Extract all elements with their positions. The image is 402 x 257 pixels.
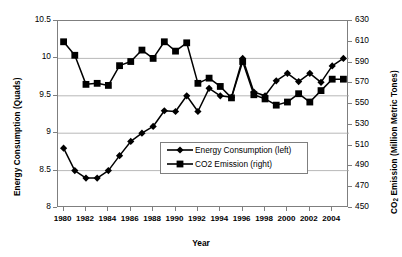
y-axis-left-title: Energy Consumption (Quads) xyxy=(13,77,22,196)
x-tick-mark xyxy=(175,207,176,211)
y-tick-right: 470 xyxy=(355,180,369,190)
y-tick-right: 510 xyxy=(355,139,369,149)
legend-item: Energy Consumption (left) xyxy=(161,143,307,157)
y-tick-left: 8.5 xyxy=(23,164,51,174)
y-tick-right: 570 xyxy=(355,76,369,86)
y-tick-mark-left xyxy=(53,132,57,133)
plot-area xyxy=(57,20,348,207)
series-2 xyxy=(60,38,347,108)
x-tick-mark xyxy=(219,207,220,211)
x-tick: 2004 xyxy=(320,214,342,223)
legend-label: Energy Consumption (left) xyxy=(194,145,291,155)
y-tick-mark-left xyxy=(53,57,57,58)
y-tick-left: 9 xyxy=(23,126,51,136)
legend-square-marker-icon xyxy=(166,158,194,170)
y-tick-mark-right xyxy=(348,207,352,208)
x-tick-mark xyxy=(197,207,198,211)
y-tick-right: 610 xyxy=(355,35,369,45)
y-tick-mark-right xyxy=(348,145,352,146)
legend-item: CO2 Emission (right) xyxy=(161,157,307,171)
y-tick-right: 490 xyxy=(355,159,369,169)
x-tick-mark xyxy=(63,207,64,211)
y-tick-left: 10 xyxy=(23,51,51,61)
legend-label: CO2 Emission (right) xyxy=(194,159,272,169)
x-tick: 1982 xyxy=(74,214,96,223)
y-tick-mark-right xyxy=(348,103,352,104)
x-tick-mark xyxy=(331,207,332,211)
x-tick: 2000 xyxy=(275,214,297,223)
x-tick: 2002 xyxy=(298,214,320,223)
x-tick: 1994 xyxy=(208,214,230,223)
x-tick: 1988 xyxy=(141,214,163,223)
y-tick-mark-left xyxy=(53,207,57,208)
x-tick: 1992 xyxy=(186,214,208,223)
data-series-layer xyxy=(58,21,349,208)
x-tick-mark xyxy=(130,207,131,211)
y-tick-mark-right xyxy=(348,124,352,125)
x-tick-mark xyxy=(85,207,86,211)
y-tick-right: 550 xyxy=(355,97,369,107)
x-tick-mark xyxy=(264,207,265,211)
chart-container: Energy Consumption (Quads) CO2 Emission … xyxy=(0,0,402,257)
legend-diamond-marker-icon xyxy=(166,144,194,156)
x-tick: 1990 xyxy=(164,214,186,223)
y-tick-mark-right xyxy=(348,62,352,63)
y-tick-mark-right xyxy=(348,186,352,187)
x-tick: 1998 xyxy=(253,214,275,223)
x-tick-mark xyxy=(152,207,153,211)
x-tick-mark xyxy=(309,207,310,211)
x-tick-mark xyxy=(242,207,243,211)
y-tick-mark-left xyxy=(53,170,57,171)
x-tick-mark xyxy=(107,207,108,211)
y-tick-mark-right xyxy=(348,20,352,21)
y-tick-mark-right xyxy=(348,165,352,166)
y-tick-mark-right xyxy=(348,41,352,42)
y-tick-right: 590 xyxy=(355,56,369,66)
x-axis-title: Year xyxy=(0,238,402,248)
y-tick-left: 10.5 xyxy=(23,14,51,24)
y-tick-right: 530 xyxy=(355,118,369,128)
y-axis-right-title: CO2 Emission (Million Metric Tones) xyxy=(390,70,399,214)
y-tick-mark-right xyxy=(348,82,352,83)
y-tick-right: 630 xyxy=(355,14,369,24)
y-tick-left: 8 xyxy=(23,201,51,211)
x-tick: 1986 xyxy=(119,214,141,223)
y-tick-mark-left xyxy=(53,20,57,21)
y-tick-left: 9.5 xyxy=(23,89,51,99)
y-tick-mark-left xyxy=(53,95,57,96)
x-tick: 1996 xyxy=(231,214,253,223)
x-tick: 1984 xyxy=(96,214,118,223)
y-tick-right: 450 xyxy=(355,201,369,211)
chart-legend: Energy Consumption (left)CO2 Emission (r… xyxy=(160,142,308,174)
x-tick-mark xyxy=(286,207,287,211)
x-tick: 1980 xyxy=(52,214,74,223)
